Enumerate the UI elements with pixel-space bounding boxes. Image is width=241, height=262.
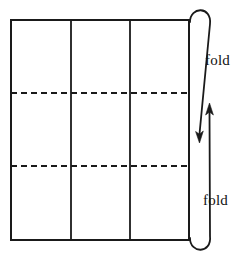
fold-label-top: fold [205, 52, 230, 68]
fold-label-bottom: fold [203, 192, 228, 208]
fold-diagram-container: fold fold [0, 0, 241, 262]
paper-sheet-outline [11, 20, 189, 240]
fold-diagram-illustration: fold fold [0, 0, 241, 262]
